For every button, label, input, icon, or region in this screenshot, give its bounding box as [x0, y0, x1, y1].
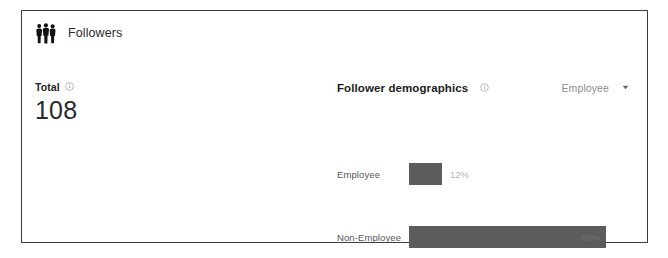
followers-card: Followers Total 108 Follower demographic…	[21, 10, 648, 243]
total-value: 108	[35, 96, 77, 124]
card-title: Followers	[68, 26, 122, 40]
total-label: Total	[35, 81, 60, 93]
bar-value-label: 88%	[581, 232, 600, 243]
people-group-icon	[35, 23, 57, 44]
bar-fill	[409, 163, 442, 185]
follower-demographics-panel: Follower demographics Employee	[337, 80, 635, 95]
screen: Followers Total 108 Follower demographic…	[0, 0, 668, 258]
bar-track: 88%	[409, 226, 635, 248]
demographics-header: Follower demographics Employee	[337, 80, 635, 95]
card-header: Followers	[22, 11, 647, 55]
bar-row: Non-Employee 88%	[337, 226, 635, 248]
bar-track: 12%	[409, 163, 635, 185]
bar-fill: 88%	[409, 226, 606, 248]
info-icon[interactable]	[475, 83, 489, 92]
demographics-filter-value: Employee	[562, 82, 610, 94]
info-icon[interactable]	[60, 82, 74, 91]
total-metric: Total 108	[35, 80, 77, 124]
total-label-row: Total	[35, 80, 77, 93]
demographics-title: Follower demographics	[337, 82, 468, 94]
chevron-down-icon[interactable]	[609, 85, 629, 90]
bar-value-label: 12%	[450, 169, 469, 180]
demographics-filter-dropdown[interactable]: Employee	[562, 80, 630, 95]
bar-category-label: Employee	[337, 169, 409, 180]
bar-row: Employee 12%	[337, 163, 635, 185]
bar-category-label: Non-Employee	[337, 232, 409, 243]
